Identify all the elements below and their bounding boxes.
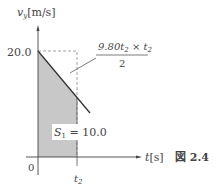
velocity-time-diagram: vy[m/s] 20.0 9.80t2 × t2 2 S1 = 10.0 0 t… xyxy=(0,0,216,190)
annotation-leader xyxy=(70,58,96,73)
y-tick-label: 20.0 xyxy=(7,46,32,59)
y-axis-label: vy[m/s] xyxy=(17,6,56,20)
annotation-numerator: 9.80t2 × t2 xyxy=(98,41,153,54)
y-axis-arrow xyxy=(37,25,40,31)
x-axis-label: t[s] xyxy=(145,151,164,164)
x-tick-label: t2 xyxy=(74,173,83,186)
annotation-denominator: 2 xyxy=(119,58,125,69)
shaded-area-s1 xyxy=(38,51,77,157)
figure-caption: 図 2.4 xyxy=(175,150,209,164)
x-axis-arrow xyxy=(136,156,142,159)
origin-label: 0 xyxy=(28,162,34,173)
